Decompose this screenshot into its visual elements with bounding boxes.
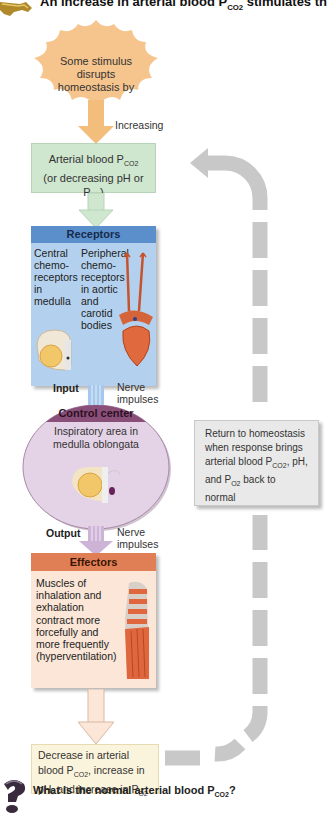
controlled-condition-line-1: Arterial blood PCO2 <box>32 152 155 171</box>
down-arrow-response <box>75 689 117 746</box>
stimulus-line-2: homeostasis by <box>40 81 152 94</box>
response-line-1: Decrease in arterial <box>38 748 152 763</box>
effectors-box: Effectors Muscles ofinhalation andexhala… <box>31 553 156 688</box>
receptors-header: Receptors <box>31 226 156 243</box>
output-arrow <box>76 526 116 556</box>
control-center-text: Inspiratory area inmedulla oblongata <box>20 425 172 451</box>
increasing-label: Increasing <box>115 119 163 131</box>
stimulus-line-1: Some stimulus disrupts <box>40 55 152 81</box>
effectors-header: Effectors <box>31 553 156 571</box>
input-label: Input <box>53 382 79 394</box>
return-to-homeostasis-box: Return to homeostasis when response brin… <box>194 420 319 506</box>
brain-illustration <box>35 326 79 371</box>
receptors-box: Receptors Centralchemo-receptorsinmedull… <box>31 226 156 386</box>
response-line-2: blood PCO2, increase in <box>38 763 152 782</box>
down-arrow-stimulus <box>76 100 116 145</box>
effectors-text: Muscles ofinhalation andexhalationcontra… <box>36 577 117 662</box>
question-text: What is the normal arterial blood PCO2? <box>33 784 236 798</box>
heart-illustration <box>119 251 153 371</box>
controlled-condition-box: Arterial blood PCO2 (or decreasing pH or… <box>31 143 156 193</box>
muscles-illustration <box>123 579 153 683</box>
input-nerve-impulses: Nerveimpulses <box>117 381 158 405</box>
question-mark-icon <box>0 778 28 814</box>
control-center-header: Control center <box>20 407 172 419</box>
stimulus-text: Some stimulus disruptshomeostasis by <box>40 55 152 94</box>
output-label: Output <box>46 527 80 539</box>
output-nerve-impulses: Nerveimpulses <box>117 526 158 550</box>
down-arrow-green <box>76 193 116 229</box>
central-chemoreceptors-text: Centralchemo-receptorsinmedulla <box>34 247 78 307</box>
